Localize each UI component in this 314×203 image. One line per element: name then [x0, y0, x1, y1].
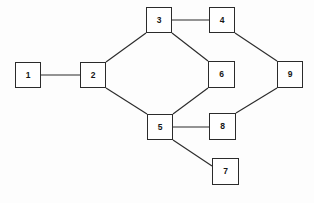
node-7[interactable]: 7	[212, 158, 239, 185]
edge-8-9	[236, 88, 277, 113]
node-9[interactable]: 9	[277, 61, 303, 88]
node-2[interactable]: 2	[80, 62, 106, 88]
node-3[interactable]: 3	[146, 7, 172, 33]
node-label-7: 7	[223, 167, 228, 176]
node-label-2: 2	[91, 71, 96, 80]
node-label-6: 6	[219, 70, 224, 79]
node-8[interactable]: 8	[209, 113, 236, 140]
node-label-8: 8	[220, 122, 225, 131]
edge-4-9	[235, 33, 277, 61]
node-6[interactable]: 6	[208, 61, 235, 88]
node-label-5: 5	[158, 123, 163, 132]
node-label-4: 4	[220, 16, 225, 25]
node-label-9: 9	[288, 70, 293, 79]
edge-5-6	[173, 88, 208, 114]
node-1[interactable]: 1	[15, 62, 41, 88]
node-4[interactable]: 4	[209, 7, 235, 33]
edge-2-3	[106, 33, 146, 62]
edge-5-7	[173, 140, 212, 166]
node-label-1: 1	[26, 71, 31, 80]
edge-2-5	[106, 88, 147, 114]
edge-3-6	[172, 33, 208, 61]
node-5[interactable]: 5	[147, 114, 173, 140]
node-label-3: 3	[157, 16, 162, 25]
graph-diagram-canvas: 123456789	[0, 0, 314, 203]
